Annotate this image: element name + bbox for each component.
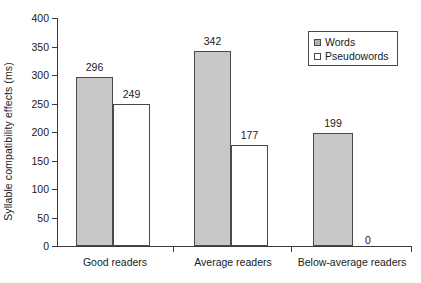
y-tick-label-150: 150 <box>31 155 49 167</box>
y-tick-100: 100 <box>52 189 57 190</box>
x-tick-group-3 <box>411 247 412 252</box>
y-tick-50: 50 <box>52 218 57 219</box>
legend-label-pseudowords: Pseudowords <box>325 51 389 62</box>
y-tick-label-200: 200 <box>31 126 49 138</box>
y-tick-label-50: 50 <box>37 212 49 224</box>
bar-average-words <box>194 51 231 246</box>
x-group-label-average-readers: Average readers <box>194 256 271 268</box>
y-tick-label-400: 400 <box>31 12 49 24</box>
y-tick-250: 250 <box>52 104 57 105</box>
y-tick-200: 200 <box>52 132 57 133</box>
legend: Words Pseudowords <box>308 31 398 66</box>
y-tick-300: 300 <box>52 75 57 76</box>
bar-below-average-words <box>313 133 353 246</box>
x-group-label-below-average-readers: Below-average readers <box>298 256 407 268</box>
y-axis-title: Syllable compatibility effects (ms) <box>0 0 16 283</box>
bar-value-average-words: 342 <box>204 35 222 47</box>
bar-chart: Syllable compatibility effects (ms) 400 … <box>0 0 421 283</box>
y-tick-350: 350 <box>52 47 57 48</box>
x-tick-group-1 <box>173 247 174 252</box>
y-tick-label-0: 0 <box>43 240 49 252</box>
y-tick-0: 0 <box>52 246 57 247</box>
y-tick-label-100: 100 <box>31 183 49 195</box>
legend-swatch-pseudowords-icon <box>314 53 321 60</box>
legend-swatch-words-icon <box>314 39 321 46</box>
bar-value-below-average-pseudowords: 0 <box>365 234 371 246</box>
legend-label-words: Words <box>325 37 355 48</box>
y-tick-150: 150 <box>52 161 57 162</box>
y-tick-label-350: 350 <box>31 41 49 53</box>
y-tick-400: 400 <box>52 18 57 19</box>
x-axis-line <box>57 246 412 247</box>
y-axis-line <box>57 18 58 247</box>
bar-value-good-words: 296 <box>86 61 104 73</box>
y-tick-label-300: 300 <box>31 69 49 81</box>
bar-average-pseudowords <box>231 145 268 246</box>
bar-value-average-pseudowords: 177 <box>241 129 259 141</box>
bar-good-words <box>76 77 113 246</box>
y-tick-label-250: 250 <box>31 98 49 110</box>
bar-good-pseudowords <box>113 104 150 246</box>
legend-item-words: Words <box>314 36 392 49</box>
bar-value-good-pseudowords: 249 <box>123 88 141 100</box>
x-tick-group-2 <box>291 247 292 252</box>
x-group-label-good-readers: Good readers <box>83 256 147 268</box>
legend-item-pseudowords: Pseudowords <box>314 50 392 63</box>
bar-value-below-average-words: 199 <box>324 117 342 129</box>
